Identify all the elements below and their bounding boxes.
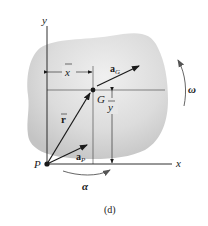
figure-caption: (d) [104,204,116,216]
point-g [91,88,96,93]
point-g-label: G [97,93,105,105]
point-p-label: P [33,158,41,170]
y-bar-label: y [107,101,113,113]
omega-rotation-arrow [178,60,186,106]
point-p [44,161,49,166]
position-vector-label: r [61,113,66,125]
x-bar-label: x [64,66,70,78]
y-axis-label: y [41,14,47,26]
x-axis-label: x [175,157,181,169]
alpha-label: α [82,180,89,192]
diagram-canvas: y x x y r aP aG G P [0,0,208,226]
rigid-body-kinematics-figure: y x x y r aP aG G P [0,0,208,226]
omega-label: ω [188,83,196,95]
alpha-rotation-arrow [63,170,110,175]
